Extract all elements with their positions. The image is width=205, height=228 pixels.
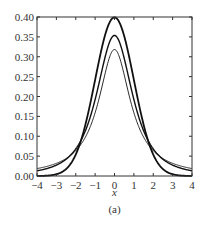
x-tick-label: −2	[70, 179, 82, 191]
y-axis-ticks: 0.000.050.100.150.200.250.300.350.40	[15, 11, 192, 182]
series-line-3	[37, 49, 192, 168]
y-tick-label: 0.10	[15, 130, 35, 142]
y-tick-label: 0.30	[15, 51, 35, 63]
x-tick-label: 1	[131, 179, 137, 191]
y-tick-label: 0.25	[15, 71, 35, 83]
x-tick-label: −3	[51, 179, 63, 191]
figure-caption: (a)	[108, 203, 121, 216]
series-line-2	[37, 35, 192, 170]
y-tick-label: 0.20	[15, 91, 35, 103]
x-tick-label: 2	[151, 179, 157, 191]
x-tick-label: 3	[170, 179, 176, 191]
y-tick-label: 0.00	[15, 170, 35, 182]
plot-curves	[37, 17, 192, 176]
y-tick-label: 0.05	[15, 150, 35, 162]
y-tick-label: 0.15	[15, 110, 35, 122]
y-tick-label: 0.35	[15, 31, 35, 43]
y-tick-label: 0.40	[15, 11, 35, 23]
chart: −4−3−2−101234 0.000.050.100.150.200.250.…	[0, 0, 205, 228]
plot-frame	[37, 17, 192, 176]
x-tick-label: −1	[89, 179, 101, 191]
series-line-1	[37, 17, 192, 176]
x-tick-label: 4	[189, 179, 195, 191]
x-axis-label: x	[111, 186, 117, 198]
